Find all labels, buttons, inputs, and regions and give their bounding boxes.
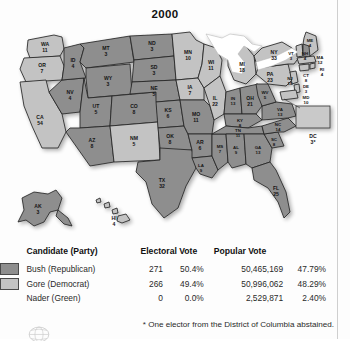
electoral-votes: 0 (141, 291, 170, 304)
popular-votes: 50,996,062 (214, 276, 289, 291)
popular-percent: 48.29% (289, 276, 336, 291)
state-NH[interactable] (303, 44, 310, 57)
svg-text:3: 3 (305, 89, 308, 94)
svg-text:RI: RI (320, 67, 324, 72)
state-IN[interactable] (224, 88, 242, 114)
electoral-percent: 50.4% (169, 261, 214, 276)
popular-votes: 50,465,169 (214, 261, 289, 276)
state-NC[interactable] (262, 118, 296, 134)
swatch-header (0, 246, 26, 261)
svg-text:8: 8 (305, 78, 308, 83)
popular-vote-header: Popular Vote (214, 246, 336, 261)
state-CT[interactable] (299, 64, 309, 71)
state-MA[interactable] (297, 56, 316, 64)
legend-swatch-cell (0, 276, 26, 291)
state-OR[interactable] (20, 56, 64, 82)
state-AR[interactable] (188, 134, 212, 158)
candidate-header: Candidate (Party) (26, 246, 140, 261)
state-FL[interactable] (252, 162, 290, 218)
table-row: Gore (Democrat)26649.4%50,996,06248.29% (0, 276, 336, 291)
state-AK-tail[interactable] (56, 210, 72, 226)
state-SD[interactable] (132, 56, 176, 82)
state-NM[interactable] (110, 122, 160, 162)
state-MT[interactable] (80, 36, 134, 68)
electoral-votes: 266 (141, 276, 170, 291)
candidate-name: Gore (Democrat) (26, 276, 140, 291)
dc-label: DC (309, 133, 317, 139)
electoral-votes: 271 (141, 261, 170, 276)
svg-text:4: 4 (113, 221, 116, 227)
electoral-percent: 49.4% (169, 276, 214, 291)
globe-icon (22, 323, 56, 341)
state-VT[interactable] (296, 44, 303, 57)
state-ND[interactable] (130, 34, 174, 60)
state-AL[interactable] (226, 134, 246, 168)
svg-text:MD: MD (303, 95, 310, 100)
state-WY[interactable] (86, 64, 132, 98)
svg-text:DE: DE (303, 84, 309, 89)
candidate-name: Nader (Green) (26, 291, 140, 304)
svg-text:4: 4 (321, 72, 324, 77)
popular-votes: 2,529,871 (214, 291, 289, 304)
results-table: Candidate (Party) Electoral Vote Popular… (0, 246, 336, 304)
state-KS[interactable] (156, 100, 184, 128)
page-gutter-rule (337, 0, 338, 339)
table-row: Bush (Republican)27150.4%50,465,16947.79… (0, 261, 336, 276)
dc-votes: 3* (311, 139, 316, 145)
state-WA[interactable] (27, 35, 64, 58)
state-AZ[interactable] (66, 126, 114, 166)
results-legend: Candidate (Party) Electoral Vote Popular… (0, 246, 336, 324)
candidate-name: Bush (Republican) (26, 261, 140, 276)
dc-box[interactable] (296, 106, 330, 128)
legend-swatch-cell (0, 261, 26, 276)
svg-text:CT: CT (303, 73, 309, 78)
state-NJ[interactable] (290, 71, 298, 84)
legend-swatch-dem (0, 278, 19, 290)
legend-swatch-cell (0, 291, 26, 304)
state-MD[interactable] (280, 90, 298, 100)
table-header-row: Candidate (Party) Electoral Vote Popular… (0, 246, 336, 261)
state-KY[interactable] (224, 114, 262, 128)
state-TN[interactable] (212, 126, 264, 134)
popular-percent: 47.79% (289, 261, 336, 276)
electoral-vote-header: Electoral Vote (141, 246, 214, 261)
electoral-percent: 0.0% (169, 291, 214, 304)
us-electoral-map: WA11 OR7 CA54 NV4 ID4 MT3 WY3 UT5 AZ8 CO… (0, 22, 336, 254)
svg-text:MA: MA (317, 55, 325, 60)
state-HI[interactable] (96, 198, 130, 223)
results-table-body: Bush (Republican)27150.4%50,465,16947.79… (0, 261, 336, 304)
page-title: 2000 (0, 8, 330, 20)
legend-swatch-none (0, 293, 17, 303)
popular-percent: 2.40% (289, 291, 336, 304)
state-CO[interactable] (110, 92, 158, 126)
legend-swatch-rep (0, 263, 19, 275)
svg-text:10: 10 (304, 100, 309, 105)
state-MO[interactable] (180, 100, 214, 134)
state-RI[interactable] (310, 63, 315, 69)
svg-text:12: 12 (318, 60, 323, 65)
svg-text:HI: HI (111, 215, 117, 221)
table-row: Nader (Green)00.0%2,529,8712.40% (0, 291, 336, 304)
state-AK[interactable] (18, 190, 62, 226)
